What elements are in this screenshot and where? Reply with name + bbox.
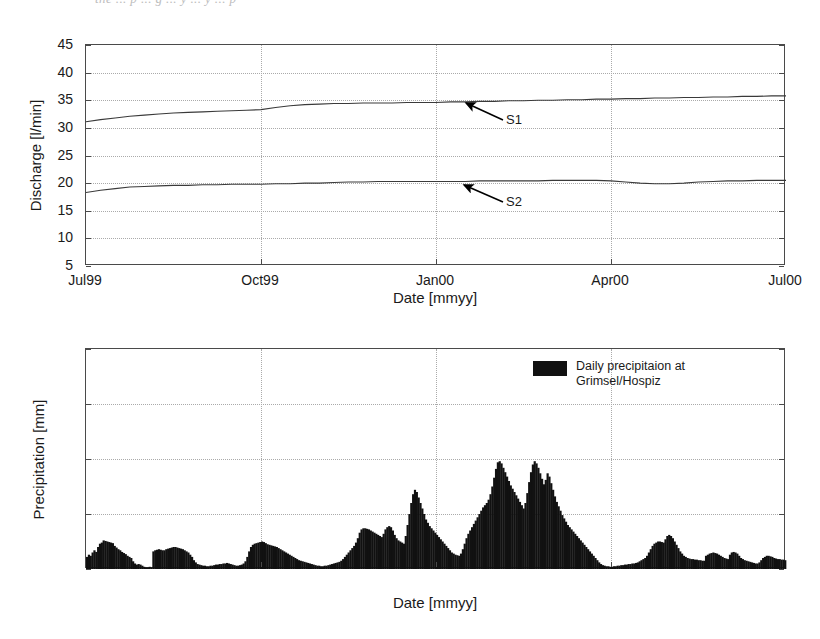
discharge-y-tickmark	[779, 183, 784, 184]
precipitation-x-tickmark	[611, 562, 612, 567]
precipitation-plot-area: Daily precipitaion at Grimsel/Hospiz	[85, 348, 785, 568]
discharge-y-tick-label: 25	[57, 147, 73, 163]
discharge-y-tick-label: 30	[57, 119, 73, 135]
discharge-series-layer	[86, 45, 786, 266]
precipitation-y-tickmark	[779, 569, 784, 570]
series-label-s2: S2	[506, 194, 522, 209]
discharge-line-s2	[86, 180, 786, 192]
discharge-y-tickmark	[779, 211, 784, 212]
discharge-y-tick-label: 20	[57, 174, 73, 190]
precipitation-y-tickmark	[86, 569, 91, 570]
precipitation-y-tickmark	[86, 349, 91, 350]
discharge-x-tickmark	[611, 259, 612, 264]
discharge-x-tick-label: Jan00	[416, 272, 454, 288]
precipitation-chart: Daily precipitaion at Grimsel/Hospiz 010…	[0, 320, 820, 639]
discharge-y-axis-label: Discharge [l/min]	[27, 76, 44, 236]
discharge-x-tickmark	[436, 259, 437, 264]
discharge-y-tickmark	[86, 128, 91, 129]
discharge-y-tickmark	[86, 45, 91, 46]
discharge-y-tickmark	[779, 238, 784, 239]
precipitation-y-tickmark	[86, 514, 91, 515]
discharge-y-tick-label: 40	[57, 64, 73, 80]
discharge-y-tickmark	[779, 266, 784, 267]
precipitation-y-axis-label: Precipitation [mm]	[30, 370, 47, 550]
legend-color-swatch	[533, 361, 567, 376]
discharge-plot-area	[85, 44, 785, 265]
discharge-x-tick-label: Jul00	[768, 272, 801, 288]
precipitation-bar-group	[86, 461, 786, 569]
discharge-y-tickmark	[779, 73, 784, 74]
discharge-y-tickmark	[779, 128, 784, 129]
discharge-y-tickmark	[86, 183, 91, 184]
discharge-x-tick-label: Apr00	[591, 272, 628, 288]
legend-label: Daily precipitaion at Grimsel/Hospiz	[576, 359, 685, 389]
discharge-y-tickmark	[779, 45, 784, 46]
precipitation-x-tickmark	[261, 562, 262, 567]
precipitation-y-tickmark	[779, 404, 784, 405]
discharge-y-tick-label: 10	[57, 229, 73, 245]
precipitation-y-tickmark	[86, 404, 91, 405]
discharge-x-tickmark	[261, 259, 262, 264]
figure-page: the ... p ... g ... y ... y ... p 510152…	[0, 0, 820, 639]
precipitation-y-tickmark	[779, 349, 784, 350]
precipitation-y-tickmark	[86, 459, 91, 460]
precipitation-x-axis-label: Date [mmyy]	[393, 594, 477, 611]
discharge-x-axis-label: Date [mmyy]	[393, 289, 477, 306]
precipitation-y-tickmark	[779, 514, 784, 515]
discharge-y-tickmark	[86, 156, 91, 157]
discharge-y-tickmark	[86, 238, 91, 239]
precipitation-legend: Daily precipitaion at Grimsel/Hospiz	[533, 359, 685, 389]
discharge-y-tickmark	[86, 266, 91, 267]
precipitation-y-tickmark	[779, 459, 784, 460]
series-label-s1: S1	[506, 112, 522, 127]
discharge-y-tick-label: 45	[57, 36, 73, 52]
discharge-y-tick-label: 35	[57, 91, 73, 107]
precipitation-bar	[784, 560, 786, 569]
discharge-y-tickmark	[779, 156, 784, 157]
discharge-chart: 51015202530354045 Jul99Oct99Jan00Apr00Ju…	[0, 0, 820, 320]
discharge-y-tickmark	[86, 211, 91, 212]
discharge-x-tick-label: Jul99	[68, 272, 101, 288]
discharge-y-tick-label: 5	[65, 257, 73, 273]
discharge-y-tickmark	[86, 100, 91, 101]
discharge-line-s1	[86, 96, 786, 122]
precipitation-x-tickmark	[436, 562, 437, 567]
discharge-y-tickmark	[779, 100, 784, 101]
discharge-y-tick-label: 15	[57, 202, 73, 218]
discharge-x-tick-label: Oct99	[241, 272, 278, 288]
discharge-y-tickmark	[86, 73, 91, 74]
